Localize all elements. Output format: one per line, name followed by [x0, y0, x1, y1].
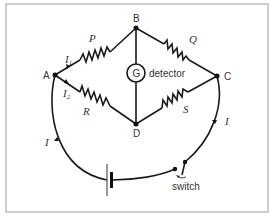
node-label-c: C	[224, 71, 231, 82]
node-label-a: A	[43, 70, 50, 81]
node-b	[134, 26, 139, 31]
node-d	[134, 122, 139, 127]
detector-label: detector	[149, 68, 186, 79]
resistor-label-p: P	[88, 32, 96, 44]
wheatstone-bridge-diagram: G detector switch A B C D P Q R S I1 I2 …	[0, 0, 274, 218]
node-label-d: D	[133, 128, 140, 139]
node-a	[53, 73, 58, 78]
resistor-label-s: S	[183, 103, 189, 115]
resistor-label-r: R	[82, 105, 90, 117]
diagram-frame	[6, 4, 268, 212]
switch-label: switch	[172, 181, 200, 192]
node-c	[215, 74, 220, 79]
node-label-b: B	[133, 13, 140, 24]
galvanometer-symbol: G	[133, 68, 141, 79]
resistor-label-q: Q	[189, 33, 197, 45]
